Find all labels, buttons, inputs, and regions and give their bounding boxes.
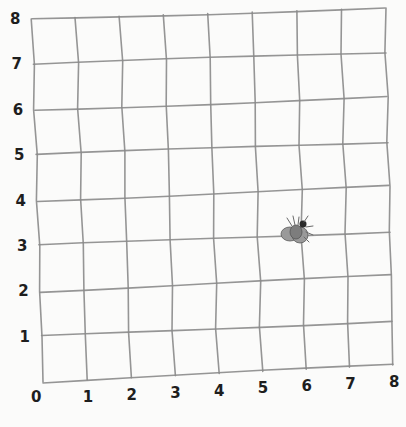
x-tick-label: 7 — [345, 375, 355, 393]
fly-icon — [281, 216, 313, 243]
x-tick-label: 3 — [170, 384, 180, 402]
fly-head — [300, 221, 307, 228]
y-tick-label: 5 — [14, 146, 24, 164]
y-tick-label: 8 — [10, 10, 20, 28]
grid-vertical-line — [385, 8, 393, 365]
grid-horizontal-line — [42, 321, 392, 335]
x-tick-label: 5 — [258, 379, 268, 397]
y-tick-label: 1 — [20, 328, 30, 346]
grid-vertical-line — [75, 18, 87, 380]
grid-lines — [31, 8, 393, 383]
x-tick-label: 1 — [83, 388, 93, 406]
grid-vertical-line — [119, 16, 131, 378]
y-axis-labels: 12345678 — [10, 10, 30, 346]
coordinate-grid-drawing: 012345678 12345678 — [0, 0, 406, 427]
x-tick-label: 4 — [214, 382, 224, 400]
y-tick-label: 6 — [13, 101, 23, 119]
y-tick-label: 7 — [11, 55, 21, 73]
fly-body — [290, 225, 302, 239]
x-tick-label: 2 — [127, 386, 137, 404]
y-tick-label: 2 — [18, 282, 28, 300]
y-tick-label: 3 — [17, 237, 27, 255]
x-axis-labels: 012345678 — [31, 373, 399, 406]
x-tick-label: 6 — [302, 377, 312, 395]
y-tick-label: 4 — [16, 192, 26, 210]
x-tick-label: 8 — [389, 373, 399, 391]
grid-vertical-line — [31, 19, 43, 382]
x-tick-label: 0 — [31, 388, 41, 406]
